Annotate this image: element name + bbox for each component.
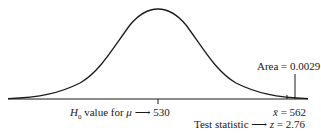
- mu0-value: 530: [153, 106, 170, 118]
- xbar-value: = 562: [278, 106, 306, 118]
- h0-text: value for: [81, 106, 126, 118]
- arrow-icon: ⟶: [132, 106, 153, 118]
- h0-label: H0 value for μ ⟶ 530: [70, 106, 170, 123]
- z-value: = 2.76: [274, 118, 305, 130]
- arrow-icon: ⟶: [251, 118, 270, 130]
- test-stat-text: Test statistic: [194, 118, 251, 130]
- test-statistic-label: Test statistic ⟶ z = 2.76: [194, 118, 305, 130]
- xbar-label: x̄ = 562: [273, 106, 306, 118]
- normal-density-curve: [8, 9, 308, 99]
- area-annotation: Area = 0.0029: [257, 60, 320, 72]
- h0-symbol: H: [70, 106, 78, 118]
